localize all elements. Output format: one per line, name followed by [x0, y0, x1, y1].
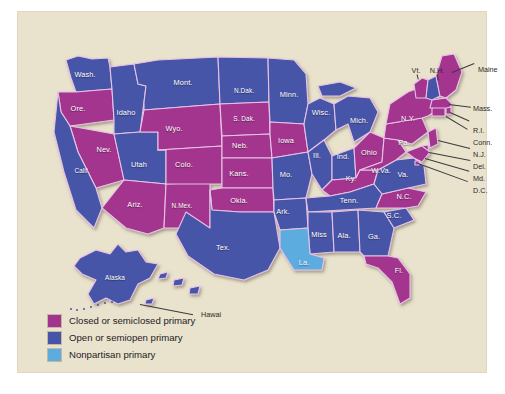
legend-label-nonpartisan: Nonpartisan primary	[69, 349, 155, 360]
callout-label-del: Del.	[473, 162, 486, 171]
legend-swatch-nonpartisan	[48, 349, 61, 361]
callout-label-vt: Vt.	[412, 66, 421, 75]
callout-label-maine: Maine	[478, 65, 498, 74]
alaska-islands	[145, 272, 200, 304]
callout-label-ri: R.I.	[473, 126, 484, 135]
state-mt[interactable]	[134, 57, 220, 110]
state-mn[interactable]	[268, 58, 308, 124]
callout-label-dc: D.C.	[473, 186, 487, 195]
state-sd[interactable]	[220, 102, 270, 136]
legend-swatch-open	[48, 332, 61, 344]
state-ar[interactable]	[274, 198, 308, 230]
state-me[interactable]	[436, 54, 462, 98]
screenshot-root: Wash.Ore.IdahoMont.N.Dak.Minn.Wisc.Mich.…	[0, 0, 505, 394]
legend-swatch-closed	[48, 315, 61, 327]
callout-label-nh: N.H.	[430, 66, 444, 75]
state-ct[interactable]	[432, 108, 445, 116]
legend-item-open[interactable]: Open or semiopen primary	[48, 329, 195, 346]
callout-label-nj: N.J.	[473, 150, 486, 159]
callout-label-conn: Conn.	[473, 138, 492, 147]
legend-label-closed: Closed or semiclosed primary	[69, 315, 195, 326]
map-plate: Wash.Ore.IdahoMont.N.Dak.Minn.Wisc.Mich.…	[18, 12, 486, 372]
map-legend: Closed or semiclosed primary Open or sem…	[48, 312, 195, 363]
state-fl[interactable]	[364, 256, 410, 304]
state-ok[interactable]	[210, 188, 274, 212]
legend-item-nonpartisan[interactable]: Nonpartisan primary	[48, 346, 195, 363]
state-co[interactable]	[158, 146, 222, 184]
state-al[interactable]	[332, 210, 360, 252]
state-ak[interactable]	[74, 244, 158, 304]
states-group	[54, 54, 462, 304]
legend-label-open: Open or semiopen primary	[69, 332, 183, 343]
state-ne[interactable]	[222, 134, 272, 158]
callout-label-md: Md.	[473, 174, 485, 183]
state-nd[interactable]	[218, 57, 269, 104]
state-az[interactable]	[102, 180, 166, 234]
state-nj[interactable]	[428, 128, 438, 148]
state-mo[interactable]	[272, 152, 312, 200]
state-in[interactable]	[332, 148, 356, 180]
callout-label-hawaii: Hawai	[201, 310, 221, 319]
legend-item-closed[interactable]: Closed or semiclosed primary	[48, 312, 195, 329]
state-ks[interactable]	[222, 158, 273, 188]
state-wa[interactable]	[66, 56, 112, 92]
callout-label-mass: Mass.	[473, 104, 492, 113]
map-canvas: Wash.Ore.IdahoMont.N.Dak.Minn.Wisc.Mich.…	[18, 12, 486, 372]
state-ms[interactable]	[308, 212, 334, 254]
